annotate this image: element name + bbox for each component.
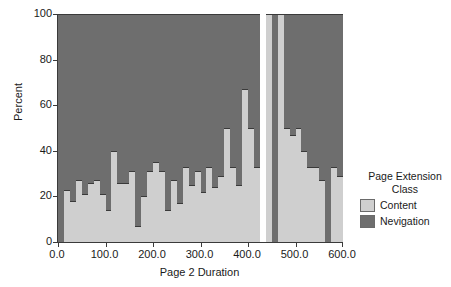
y-tick-mark xyxy=(53,151,58,152)
x-tick-mark xyxy=(296,242,297,247)
x-tick-label: 400.0 xyxy=(222,248,272,260)
x-tick-label: 500.0 xyxy=(270,248,320,260)
y-tick-label: 0 xyxy=(26,236,52,247)
x-tick-mark xyxy=(58,242,59,247)
legend-entries: ContentNevigation xyxy=(360,199,450,228)
legend: Page Extension Class ContentNevigation xyxy=(360,170,450,228)
x-tick-mark xyxy=(201,242,202,247)
plot-area xyxy=(57,14,343,243)
legend-title-line-2: Class xyxy=(360,183,450,196)
y-tick-label: 100 xyxy=(26,8,52,19)
legend-item[interactable]: Content xyxy=(360,199,450,212)
bar xyxy=(337,14,343,242)
legend-swatch-icon xyxy=(360,215,375,228)
bar-segment-content xyxy=(337,176,343,242)
bar-segment-content xyxy=(254,167,260,242)
legend-title-line-1: Page Extension xyxy=(360,170,450,183)
y-axis-tick-labels: 020406080100 xyxy=(22,0,52,287)
x-tick-label: 200.0 xyxy=(127,248,177,260)
x-tick-label: 300.0 xyxy=(175,248,225,260)
y-tick-label: 20 xyxy=(26,190,52,201)
y-tick-mark xyxy=(53,105,58,106)
bar xyxy=(254,14,260,242)
x-tick-label: 100.0 xyxy=(80,248,130,260)
x-tick-label: 0.0 xyxy=(32,248,82,260)
y-tick-label: 60 xyxy=(26,99,52,110)
bar-segment-navigation xyxy=(337,14,343,176)
legend-label: Nevigation xyxy=(380,215,430,228)
x-tick-mark xyxy=(153,242,154,247)
x-axis-tick-labels: 0.0100.0200.0300.0400.0500.0600.0 xyxy=(0,248,451,264)
bars-container xyxy=(58,14,343,242)
x-tick-label: 600.0 xyxy=(317,248,367,260)
x-tick-mark xyxy=(342,242,343,247)
x-axis-title: Page 2 Duration xyxy=(57,266,342,278)
legend-label: Content xyxy=(380,199,417,212)
legend-item[interactable]: Nevigation xyxy=(360,215,450,228)
y-tick-label: 40 xyxy=(26,145,52,156)
stacked-bar-chart: Percent 020406080100 0.0100.0200.0300.04… xyxy=(0,0,451,287)
y-tick-mark xyxy=(53,60,58,61)
bar-segment-navigation xyxy=(254,14,260,167)
legend-swatch-icon xyxy=(360,199,375,212)
y-tick-mark xyxy=(53,14,58,15)
x-tick-mark xyxy=(106,242,107,247)
y-tick-label: 80 xyxy=(26,54,52,65)
x-tick-mark xyxy=(248,242,249,247)
y-tick-mark xyxy=(53,196,58,197)
